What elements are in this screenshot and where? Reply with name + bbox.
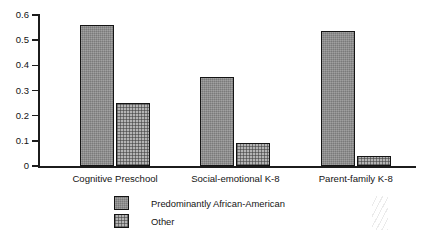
bar <box>321 31 355 166</box>
legend-item: Other <box>114 212 285 230</box>
y-axis-tick-label: 0.6 <box>0 10 29 20</box>
bar <box>80 25 114 166</box>
bar-chart: 00.10.20.30.40.50.6 Cognitive PreschoolS… <box>0 0 422 244</box>
scan-artifact <box>372 196 388 230</box>
legend-item: Predominantly African-American <box>114 194 285 212</box>
x-axis-line <box>38 166 416 168</box>
x-axis-category-label: Parent-family K-8 <box>266 173 422 185</box>
y-axis-tick-label: 0.1 <box>0 136 29 146</box>
legend-swatch-icon <box>114 196 129 210</box>
y-axis-tick-label: 0.3 <box>0 86 29 96</box>
bar <box>200 77 234 166</box>
y-axis-tick-label: 0.2 <box>0 111 29 121</box>
legend-swatch-icon <box>114 214 129 228</box>
y-axis-tick-label: 0.4 <box>0 60 29 70</box>
legend: Predominantly African-American Other <box>114 194 285 230</box>
plot-area <box>38 15 414 166</box>
y-axis-tick-label: 0.5 <box>0 35 29 45</box>
y-axis-tick-label: 0 <box>0 161 29 171</box>
legend-item-label: Other <box>151 216 174 227</box>
bar <box>357 156 391 166</box>
legend-item-label: Predominantly African-American <box>151 198 285 209</box>
bar <box>236 143 270 166</box>
bar <box>116 103 150 166</box>
